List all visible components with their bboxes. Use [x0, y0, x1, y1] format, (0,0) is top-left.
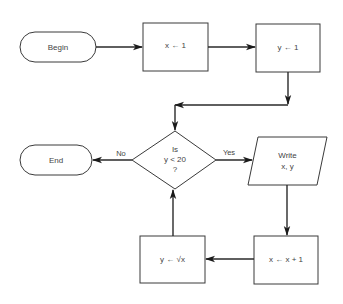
edge-label-no: No	[116, 149, 126, 158]
update-y-label: y ← √x	[160, 255, 185, 264]
decision-line1: Is	[172, 145, 178, 154]
write-line2: x, y	[281, 162, 293, 171]
decision-line2: y < 20	[164, 155, 187, 164]
init-x-label: x ← 1	[165, 41, 186, 50]
write-io: Write x, y	[248, 137, 327, 185]
decision-line3: ?	[173, 165, 178, 174]
update-y-process: y ← √x	[140, 236, 205, 283]
increment-x-process: x ← x + 1	[254, 236, 318, 284]
end-terminal: End	[20, 145, 92, 175]
begin-terminal: Begin	[20, 32, 96, 62]
end-label: End	[49, 156, 63, 165]
init-x-process: x ← 1	[143, 23, 208, 71]
edge-label-yes: Yes	[223, 148, 235, 157]
flowchart: Begin x ← 1 y ← 1 Is y < 20 ? End Write …	[0, 0, 343, 304]
write-line1: Write	[278, 151, 297, 160]
decision-diamond: Is y < 20 ?	[132, 131, 216, 189]
increment-x-label: x ← x + 1	[269, 255, 304, 264]
init-y-process: y ← 1	[256, 24, 320, 72]
begin-label: Begin	[48, 43, 68, 52]
init-y-label: y ← 1	[278, 43, 299, 52]
